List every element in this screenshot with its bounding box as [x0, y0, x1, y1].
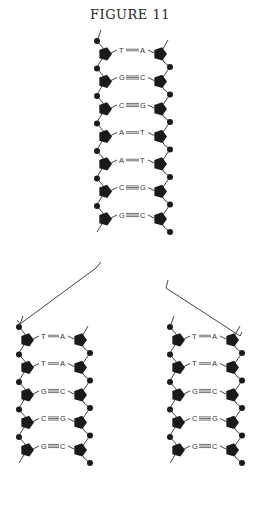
base-pair: CG: [184, 414, 226, 423]
phosphate-dot-icon: [94, 38, 100, 44]
sugar-pentagon-icon: [226, 416, 239, 429]
sugar-pentagon-icon: [172, 361, 185, 374]
base-pair: GC: [33, 387, 74, 396]
base-right: A: [60, 359, 65, 368]
phosphate-dot-icon: [87, 378, 93, 384]
base-pair: TA: [33, 332, 74, 341]
phosphate-dot-icon: [87, 405, 93, 411]
base-pair: AT: [111, 156, 154, 165]
sugar-pentagon-icon: [154, 130, 167, 143]
base-right: T: [140, 128, 145, 137]
phosphate-dot-icon: [16, 407, 22, 413]
phosphate-dot-icon: [94, 203, 100, 209]
phosphate-dot-icon: [87, 433, 93, 439]
sugar-pentagon-icon: [74, 416, 87, 429]
sugar-pentagon-icon: [154, 157, 167, 170]
phosphate-dot-icon: [167, 434, 173, 440]
base-left: C: [119, 183, 125, 192]
phosphate-dot-icon: [167, 324, 173, 330]
base-pair: GC: [184, 442, 226, 451]
phosphate-dot-icon: [16, 379, 22, 385]
base-left: G: [41, 442, 47, 451]
sugar-pentagon-icon: [154, 47, 167, 60]
base-pair: TA: [111, 46, 154, 55]
phosphate-dot-icon: [167, 119, 173, 125]
base-pair: GC: [184, 387, 226, 396]
phosphate-dot-icon: [239, 460, 245, 466]
base-pair: TA: [184, 332, 226, 341]
sugar-pentagon-icon: [74, 388, 87, 401]
base-right: G: [212, 414, 218, 423]
base-pair: GC: [111, 211, 154, 220]
base-left: A: [119, 156, 124, 165]
phosphate-dot-icon: [16, 352, 22, 358]
base-pair: GC: [33, 442, 74, 451]
sugar-pentagon-icon: [172, 416, 185, 429]
phosphate-dot-icon: [16, 434, 22, 440]
phosphate-dot-icon: [167, 379, 173, 385]
base-right: C: [212, 387, 218, 396]
base-left: G: [192, 387, 198, 396]
base-right: G: [60, 414, 66, 423]
phosphate-dot-icon: [167, 174, 173, 180]
sugar-pentagon-icon: [21, 333, 34, 346]
sugar-pentagon-icon: [154, 102, 167, 115]
base-left: T: [41, 332, 46, 341]
phosphate-dot-icon: [94, 93, 100, 99]
base-right: C: [60, 442, 66, 451]
phosphate-dot-icon: [239, 405, 245, 411]
base-pair: CG: [33, 414, 74, 423]
base-right: G: [140, 101, 146, 110]
base-left: A: [119, 128, 124, 137]
base-left: T: [119, 46, 124, 55]
base-right: A: [140, 46, 145, 55]
sugar-pentagon-icon: [21, 361, 34, 374]
phosphate-dot-icon: [167, 229, 173, 235]
fork-strand-left: [17, 262, 101, 324]
sugar-pentagon-icon: [154, 185, 167, 198]
phosphate-dot-icon: [167, 92, 173, 98]
sugar-pentagon-icon: [172, 443, 185, 456]
phosphate-dot-icon: [239, 433, 245, 439]
base-left: G: [41, 387, 47, 396]
sugar-pentagon-icon: [226, 388, 239, 401]
daughter-helix-right: TATAGCCGGC: [167, 316, 245, 466]
phosphate-dot-icon: [167, 147, 173, 153]
base-pair: CG: [111, 101, 154, 110]
base-left: G: [192, 442, 198, 451]
phosphate-dot-icon: [94, 148, 100, 154]
base-left: T: [192, 332, 197, 341]
sugar-pentagon-icon: [154, 75, 167, 88]
sugar-pentagon-icon: [74, 443, 87, 456]
base-right: A: [212, 332, 217, 341]
base-pair: TA: [184, 359, 226, 368]
sugar-pentagon-icon: [21, 388, 34, 401]
base-left: G: [119, 73, 125, 82]
base-right: A: [212, 359, 217, 368]
phosphate-dot-icon: [239, 350, 245, 356]
base-left: T: [41, 359, 46, 368]
base-pair: TA: [33, 359, 74, 368]
base-pair: GC: [111, 73, 154, 82]
sugar-pentagon-icon: [74, 333, 87, 346]
phosphate-dot-icon: [87, 350, 93, 356]
base-pair: CG: [111, 183, 154, 192]
base-left: C: [192, 414, 198, 423]
phosphate-dot-icon: [94, 176, 100, 182]
base-right: A: [60, 332, 65, 341]
base-left: C: [119, 101, 125, 110]
base-pair: AT: [111, 128, 154, 137]
sugar-pentagon-icon: [74, 361, 87, 374]
phosphate-dot-icon: [94, 66, 100, 72]
sugar-pentagon-icon: [172, 388, 185, 401]
base-right: C: [140, 73, 146, 82]
fork-strand-right: [166, 280, 242, 336]
parent-helix: TAGCCGATATCGGC: [94, 30, 173, 235]
daughter-helix-left: TATAGCCGGC: [16, 316, 93, 466]
base-right: G: [140, 183, 146, 192]
sugar-pentagon-icon: [99, 212, 112, 225]
dna-replication-diagram: TAGCCGATATCGGCTATAGCCGGCTATAGCCGGC: [0, 0, 260, 512]
sugar-pentagon-icon: [226, 443, 239, 456]
sugar-pentagon-icon: [226, 333, 239, 346]
phosphate-dot-icon: [16, 324, 22, 330]
